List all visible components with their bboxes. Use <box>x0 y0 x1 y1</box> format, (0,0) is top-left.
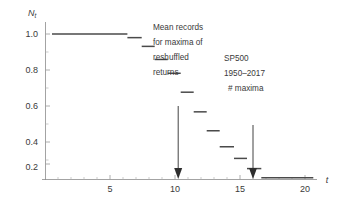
chart-figure: 1.0 0.8 0.6 0.4 0.2 Nt <box>0 0 340 209</box>
x-tick-label-4: 20 <box>300 184 310 194</box>
y-tick-label-5: 0.2 <box>25 162 38 172</box>
y-tick-label-3: 0.6 <box>25 101 38 111</box>
x-tick-label-1: 5 <box>107 184 112 194</box>
annotation-reshuffled-line-2: for maxima of <box>153 38 203 47</box>
annotation-reshuffled-line-1: Mean records <box>153 23 203 32</box>
annotation-reshuffled-line-4: returns <box>153 68 178 77</box>
annotation-text-sp500: SP500 1950–2017 # maxima <box>224 54 265 93</box>
annotation-sp500-line-2: 1950–2017 <box>224 69 265 78</box>
y-axis-major-ticks <box>46 34 51 164</box>
x-axis-label: t <box>326 175 329 185</box>
y-tick-label-4: 0.4 <box>25 137 38 147</box>
annotation-arrow-sp500 <box>249 125 257 179</box>
annotation-text-reshuffled: Mean records for maxima of reshuffled re… <box>153 23 203 77</box>
step-plot-canvas: 1.0 0.8 0.6 0.4 0.2 Nt <box>0 0 340 209</box>
x-tick-label-2: 10 <box>170 184 180 194</box>
annotation-arrow-reshuffled <box>174 106 182 179</box>
x-tick-label-3: 15 <box>235 184 245 194</box>
annotation-reshuffled-line-3: reshuffled <box>153 53 189 62</box>
annotation-sp500-line-1: SP500 <box>224 54 249 63</box>
annotation-sp500-line-3: # maxima <box>228 84 264 93</box>
y-tick-label-1: 1.0 <box>25 29 38 39</box>
y-axis-label: Nt <box>28 8 38 19</box>
y-tick-label-2: 0.8 <box>25 65 38 75</box>
